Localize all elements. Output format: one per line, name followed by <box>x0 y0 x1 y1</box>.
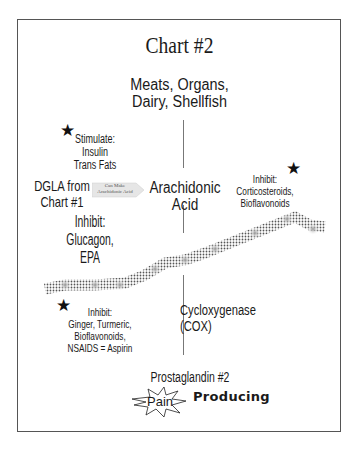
producing-text: Producing <box>193 389 270 404</box>
inhibit-bottom-item: NSAIDS = Aspirin <box>66 342 134 354</box>
source-line-1: Meats, Organs, <box>18 76 341 93</box>
connector-top <box>183 120 184 168</box>
inhibit-bottom-block: Inhibit: Ginger, Turmeric, Bioflavonoids… <box>55 306 145 354</box>
enzyme-label: Cycloxygenase (COX) <box>180 302 300 334</box>
inhibit-bottom-item: Ginger, Turmeric, <box>66 318 134 330</box>
inhibit-right-label: Inhibit: <box>235 173 295 185</box>
inhibit-right-block: Inhibit: Corticosteroids, Bioflavonoids <box>225 173 305 209</box>
enzyme-text: Cycloxygenase (COX) <box>180 302 276 334</box>
stimulate-item: Trans Fats <box>61 159 129 172</box>
source-foods: Meats, Organs, Dairy, Shellfish <box>18 76 341 110</box>
pain-burst: Pain <box>130 385 190 419</box>
conversion-arrow: Can Make Arachidonic Acid <box>92 180 146 200</box>
stimulate-block: Stimulate: Insulin Trans Fats <box>50 133 140 172</box>
product-text: Prostaglandin #2 <box>145 369 235 385</box>
source-line-2: Dairy, Shellfish <box>18 93 341 110</box>
product-label: Prostaglandin #2 <box>130 369 250 385</box>
arrow-line-2: Arachidonic Acid <box>92 189 138 195</box>
inhibit-bottom-label: Inhibit: <box>66 306 134 318</box>
arrow-label: Can Make Arachidonic Acid <box>92 183 138 195</box>
inhibit-right-item: Corticosteroids, <box>235 185 295 197</box>
inhibit-bottom-item: Bioflavonoids, <box>66 330 134 342</box>
cell-membrane-band <box>40 205 330 300</box>
arachidonic-line-1: Arachidonic <box>147 179 224 196</box>
chart-title: Chart #2 <box>27 33 332 59</box>
pain-text: Pain <box>130 394 190 409</box>
dgla-line-1: DGLA from <box>32 178 92 194</box>
